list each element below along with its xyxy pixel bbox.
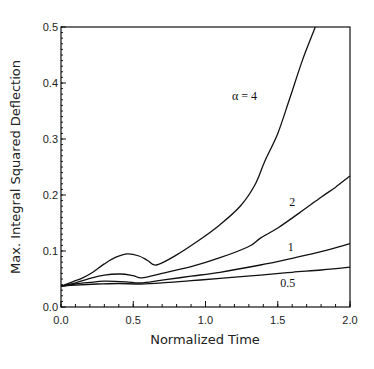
y-tick-label: 0.5 (43, 21, 58, 33)
y-tick-label: 0.1 (43, 245, 58, 257)
series-line-2 (61, 176, 350, 286)
x-axis-title: Normalized Time (150, 332, 260, 347)
chart: 0.00.51.01.52.0 0.00.10.20.30.40.5 α = 4… (0, 0, 374, 369)
x-tick-label: 0.0 (53, 314, 68, 326)
series-label: 0.5 (280, 276, 295, 290)
series-line-4 (61, 27, 315, 286)
y-tick-label: 0.3 (43, 133, 58, 145)
x-tick-label: 1.0 (198, 314, 213, 326)
y-tick-labels: 0.00.10.20.30.40.5 (43, 21, 58, 313)
y-tick-label: 0.0 (43, 301, 58, 313)
y-tick-label: 0.4 (43, 77, 58, 89)
x-tick-labels: 0.00.51.01.52.0 (53, 314, 357, 326)
x-tick-label: 2.0 (342, 314, 357, 326)
series-line-0-5 (61, 267, 350, 286)
minor-ticks (61, 27, 350, 307)
x-tick-label: 1.5 (270, 314, 285, 326)
x-tick-label: 0.5 (126, 314, 141, 326)
major-ticks (61, 27, 350, 307)
plot-frame (61, 27, 350, 307)
curves (61, 27, 350, 286)
series-label: 1 (288, 240, 294, 254)
series-label: 2 (289, 195, 295, 209)
y-tick-label: 0.2 (43, 189, 58, 201)
series-label: α = 4 (232, 89, 257, 103)
y-axis-title: Max. Integral Squared Deflection (8, 60, 23, 274)
